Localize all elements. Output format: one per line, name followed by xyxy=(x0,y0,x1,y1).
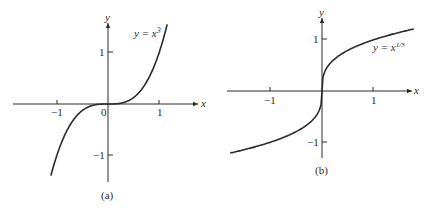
x-tick-label: −1 xyxy=(264,94,276,106)
x-tick-label: 1 xyxy=(157,106,163,118)
x-axis-label: x xyxy=(413,84,419,96)
curve-annotation: y = x1/3 xyxy=(372,41,405,53)
x-axis-label: x xyxy=(200,97,206,109)
x-tick-label: 0 xyxy=(101,106,107,118)
y-tick-label: 1 xyxy=(99,46,105,58)
x-tick-label: −1 xyxy=(51,106,63,118)
y-axis-label: y xyxy=(318,6,324,18)
plot-b: x y −1 1 1 −1 y = x1/3 (b) xyxy=(227,6,419,177)
caption: (b) xyxy=(315,164,328,177)
x-tick-label: 1 xyxy=(371,94,377,106)
y-tick-label: −1 xyxy=(93,149,105,161)
figure-canvas: x y −1 0 1 1 −1 y = x3 (a) x y −1 1 1 −1… xyxy=(0,0,430,210)
y-tick-label: 1 xyxy=(313,33,319,45)
curve-x-cubed xyxy=(51,24,167,175)
curve-annotation: y = x3 xyxy=(133,26,161,39)
plot-a: x y −1 0 1 1 −1 y = x3 (a) xyxy=(13,11,206,202)
y-tick-label: −1 xyxy=(307,136,319,148)
caption: (a) xyxy=(101,189,114,202)
y-axis-label: y xyxy=(104,11,110,23)
